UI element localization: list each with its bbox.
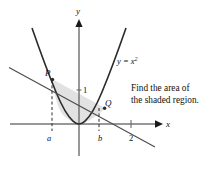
y-tick-label-1: 1 xyxy=(83,85,87,95)
prompt-line-1: Find the area of xyxy=(131,83,211,95)
curve-equation-exponent: 2 xyxy=(135,56,138,62)
curve-equation-label: y = x2 xyxy=(116,56,138,66)
x-axis-label: x xyxy=(165,119,170,129)
point-label-Q: Q xyxy=(105,98,112,108)
x-axis-arrowhead xyxy=(155,120,163,128)
problem-prompt: Find the area of the shaded region. xyxy=(131,83,211,106)
y-axis-arrowhead xyxy=(75,19,82,27)
x-tick-label-b: b xyxy=(98,133,102,143)
x-tick-label-2: 2 xyxy=(129,133,133,143)
x-tick-label-a: a xyxy=(47,133,51,143)
y-axis-label: y xyxy=(75,6,80,16)
point-marker-P xyxy=(51,78,54,81)
curve-equation-base: y = x xyxy=(116,56,135,66)
point-label-P: P xyxy=(44,68,51,78)
prompt-line-2: the shaded region. xyxy=(131,95,211,107)
figure-container: y x P Q a b 2 1 y = x2 Find the area of … xyxy=(0,0,213,190)
